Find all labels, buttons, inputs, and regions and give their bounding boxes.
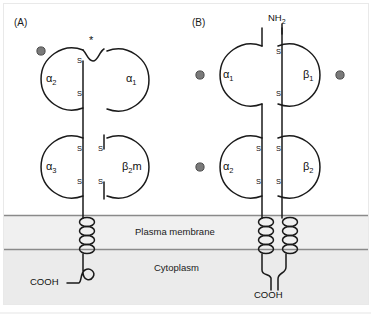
b-beta2-domain-outline — [278, 136, 320, 198]
domain-label-beta1-b: β1 — [303, 68, 314, 83]
figure-canvas: (A) (B) α2 α1 α3 β2m S S S S S S * COOH … — [0, 0, 371, 314]
disulfide-label-b2m-1: S — [98, 144, 103, 153]
peptide-groove-asterisk: * — [89, 35, 93, 46]
domain-label-beta2m-a: β2m — [122, 160, 142, 175]
glycosylation-dot-a1 — [37, 47, 45, 55]
domain-label-alpha3-a: α3 — [46, 160, 57, 175]
domain-label-alpha2-b: α2 — [223, 160, 234, 175]
peptide-groove-notch — [83, 49, 104, 61]
domain-label-alpha1-a: α1 — [126, 72, 137, 87]
disulfide-label-a-4: S — [77, 177, 82, 186]
disulfide-label-a-1: S — [77, 56, 82, 65]
domain-label-alpha1-b: α1 — [223, 68, 234, 83]
panel-label-b: (B) — [192, 17, 205, 28]
disulfide-label-b-5: S — [276, 144, 281, 153]
plasma-membrane-label: Plasma membrane — [135, 226, 215, 237]
c-terminus-label-b: COOH — [254, 289, 283, 300]
disulfide-label-a-3: S — [77, 144, 82, 153]
disulfide-label-b-3: S — [256, 144, 261, 153]
cytoplasm-label: Cytoplasm — [154, 262, 199, 273]
diagram-frame: (A) (B) α2 α1 α3 β2m S S S S S S * COOH … — [3, 3, 369, 305]
b-beta1-domain-outline — [278, 44, 320, 106]
glycosylation-dot-b-alpha2 — [196, 163, 204, 171]
n-terminus-label-b: NH2 — [268, 12, 286, 25]
diagram-artwork — [4, 4, 368, 304]
domain-label-alpha2-a: α2 — [46, 72, 57, 87]
disulfide-label-b-6: S — [276, 177, 281, 186]
disulfide-label-a-2: S — [77, 89, 82, 98]
disulfide-label-b-4: S — [256, 177, 261, 186]
domain-label-beta2-b: β2 — [303, 160, 314, 175]
c-terminus-label-a: COOH — [30, 276, 59, 287]
disulfide-label-b-1: S — [276, 47, 281, 56]
glycosylation-dot-b-beta1 — [336, 71, 344, 79]
disulfide-label-b2m-2: S — [98, 177, 103, 186]
glycosylation-dot-b-alpha1 — [196, 71, 204, 79]
disulfide-label-b-2: S — [276, 89, 281, 98]
panel-label-a: (A) — [14, 17, 27, 28]
